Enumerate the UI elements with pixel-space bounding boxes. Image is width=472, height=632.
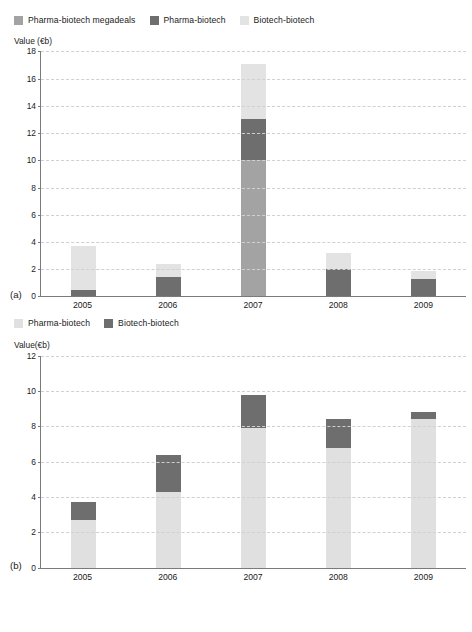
bar-segment-pharma-biotech-2005[interactable]: [71, 520, 96, 568]
bar-segment-biotech-biotech-2009[interactable]: [411, 412, 436, 419]
y-axis-tick-mark: [38, 133, 41, 134]
bar-segment-biotech-biotech-2008[interactable]: [326, 419, 351, 447]
y-axis-tick-label: 10: [27, 156, 36, 164]
x-axis-label-2008: 2008: [296, 301, 381, 310]
legend-entry-biotech-biotech: Biotech-biotech: [240, 16, 315, 25]
gridline: [41, 79, 466, 80]
plot-area-chart-b: 024681012: [40, 356, 466, 569]
bar-segment-pharma-biotech-2009[interactable]: [411, 279, 436, 297]
bar-segment-biotech-biotech-2008[interactable]: [326, 253, 351, 269]
x-axis-label-2006: 2006: [125, 573, 210, 582]
bar-segment-pharma-biotech-2006[interactable]: [156, 277, 181, 296]
bar-segment-biotech-biotech-2006[interactable]: [156, 455, 181, 492]
gridline: [41, 133, 466, 134]
bar-stack[interactable]: [326, 419, 351, 567]
y-axis-tick-label: 2: [31, 528, 36, 536]
y-axis-tick-mark: [38, 497, 41, 498]
y-axis-tick-label: 0: [31, 292, 36, 300]
bar-segment-pharma-biotech-2008[interactable]: [326, 269, 351, 296]
bar-stack[interactable]: [326, 253, 351, 297]
y-axis-tick-mark: [38, 568, 41, 569]
gridline: [41, 160, 466, 161]
bar-group-2009[interactable]: [381, 51, 466, 296]
x-axis-label-2006: 2006: [125, 301, 210, 310]
y-axis-tick-label: 6: [31, 458, 36, 466]
bar-segment-biotech-biotech-2007[interactable]: [241, 395, 266, 429]
bar-stack[interactable]: [71, 246, 96, 296]
y-axis-tick-mark: [38, 532, 41, 533]
x-axis-label-2007: 2007: [210, 573, 295, 582]
x-axis-label-2009: 2009: [381, 301, 466, 310]
y-axis-tick-mark: [38, 269, 41, 270]
bar-segment-biotech-biotech-2005[interactable]: [71, 502, 96, 520]
bar-stack[interactable]: [241, 395, 266, 568]
gridline: [41, 51, 466, 52]
y-axis-title-chart-a: Value (€b): [0, 37, 472, 45]
y-axis-tick-label: 6: [31, 211, 36, 219]
y-axis-title-chart-b: Value(€b): [0, 341, 472, 349]
gridline: [41, 497, 466, 498]
bar-segment-pharma-biotech-2006[interactable]: [156, 492, 181, 568]
legend-label-biotech-biotech-b: Biotech-biotech: [118, 319, 179, 328]
bar-stack[interactable]: [71, 502, 96, 567]
y-axis-tick-mark: [38, 296, 41, 297]
legend-swatch-biotech-biotech: [240, 16, 249, 25]
y-axis-tick-mark: [38, 215, 41, 216]
bar-segment-pharma-biotech-megadeals-2007[interactable]: [241, 160, 266, 296]
y-axis-tick-mark: [38, 160, 41, 161]
bar-group-2008[interactable]: [296, 51, 381, 296]
bar-group-2005[interactable]: [41, 51, 126, 296]
x-axis-labels-chart-b: 20052006200720082009: [40, 573, 466, 582]
bar-segment-biotech-biotech-2009[interactable]: [411, 271, 436, 279]
gridline: [41, 106, 466, 107]
bar-segment-pharma-biotech-2005[interactable]: [71, 290, 96, 297]
bar-stack[interactable]: [241, 64, 266, 297]
legend-entry-biotech-biotech-b: Biotech-biotech: [104, 319, 179, 328]
y-axis-tick-mark: [38, 79, 41, 80]
bar-series-chart-a: [41, 51, 466, 296]
legend-entry-pharma-biotech-megadeals: Pharma-biotech megadeals: [14, 16, 136, 25]
bar-segment-biotech-biotech-2005[interactable]: [71, 246, 96, 290]
bar-segment-biotech-biotech-2007[interactable]: [241, 64, 266, 120]
y-axis-tick-label: 2: [31, 265, 36, 273]
legend-entry-pharma-biotech: Pharma-biotech: [150, 16, 226, 25]
bar-stack[interactable]: [156, 455, 181, 568]
gridline: [41, 188, 466, 189]
y-axis-tick-mark: [38, 106, 41, 107]
bar-segment-pharma-biotech-2007[interactable]: [241, 119, 266, 160]
bar-stack[interactable]: [411, 271, 436, 297]
bar-segment-pharma-biotech-2008[interactable]: [326, 448, 351, 568]
bar-segment-biotech-biotech-2006[interactable]: [156, 264, 181, 278]
gridline: [41, 391, 466, 392]
y-axis-tick-label: 8: [31, 183, 36, 191]
chart-panel-a: Pharma-biotech megadeals Pharma-biotech …: [0, 0, 472, 297]
gridline: [41, 462, 466, 463]
panel-label-a: (a): [10, 290, 22, 300]
legend-label-biotech-biotech: Biotech-biotech: [254, 16, 315, 25]
y-axis-tick-label: 12: [27, 129, 36, 137]
y-axis-tick-mark: [38, 51, 41, 52]
plot-area-chart-a: 024681012141618: [40, 51, 466, 297]
y-axis-tick-mark: [38, 242, 41, 243]
gridline: [41, 426, 466, 427]
y-axis-tick-label: 4: [31, 238, 36, 246]
gridline: [41, 215, 466, 216]
y-axis-tick-mark: [38, 426, 41, 427]
x-axis-label-2005: 2005: [40, 301, 125, 310]
x-axis-label-2008: 2008: [296, 573, 381, 582]
panel-label-b: (b): [10, 561, 22, 571]
legend-label-pharma-biotech-megadeals: Pharma-biotech megadeals: [28, 16, 136, 25]
bar-group-2006[interactable]: [126, 51, 211, 296]
gridline: [41, 242, 466, 243]
y-axis-tick-label: 14: [27, 102, 36, 110]
legend-chart-b: Pharma-biotech Biotech-biotech: [0, 315, 472, 331]
bar-stack[interactable]: [411, 412, 436, 567]
legend-label-pharma-biotech-b: Pharma-biotech: [28, 319, 90, 328]
x-axis-labels-chart-a: 20052006200720082009: [40, 301, 466, 310]
y-axis-tick-label: 8: [31, 422, 36, 430]
y-axis-tick-label: 10: [27, 387, 36, 395]
bar-segment-pharma-biotech-2009[interactable]: [411, 419, 436, 567]
legend-swatch-pharma-biotech-megadeals: [14, 16, 23, 25]
bar-group-2007[interactable]: [211, 51, 296, 296]
y-axis-tick-label: 16: [27, 74, 36, 82]
